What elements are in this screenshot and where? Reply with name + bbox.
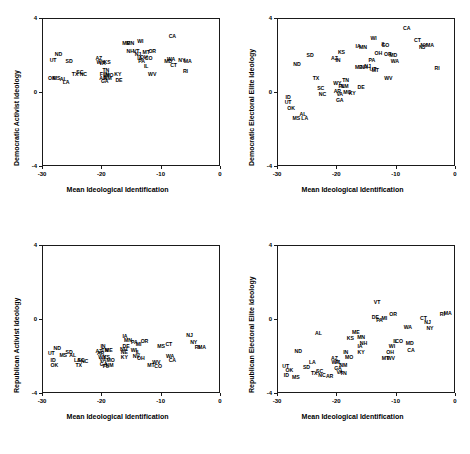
panel-democratic-activist-ideology: UTNDSDOKMSALLATXSCNCAZWYVAKSTNFLINMOARNM…: [0, 0, 235, 227]
x-axis-tick: [396, 393, 397, 396]
x-axis-tick-label: -30: [38, 398, 47, 404]
four-panel-scatter-figure: UTNDSDOKMSALLATXSCNCAZWYVAKSTNFLINMOARNM…: [0, 0, 470, 454]
y-axis-title: Democratic Activist Ideology: [13, 70, 20, 166]
x-axis-tick-label: -10: [391, 171, 400, 177]
data-point-label: NY: [426, 327, 433, 332]
y-axis-tick-label: 0: [269, 316, 272, 322]
plot-area: UTNDSDOKMSALLATXSCNCAZWYVAKSTNFLINMOARNM…: [42, 18, 220, 166]
data-point-label: ND: [295, 350, 302, 355]
data-point-label: TX: [313, 77, 319, 82]
data-point-label: IL: [144, 64, 148, 69]
data-point-label: MA: [198, 345, 206, 350]
x-axis-tick: [161, 166, 162, 169]
data-point-label: OR: [148, 50, 156, 55]
x-axis-tick: [336, 166, 337, 169]
data-point-label: OK: [50, 364, 58, 369]
x-axis-tick: [455, 166, 456, 169]
x-axis-tick: [455, 393, 456, 396]
data-point-label: IA: [357, 344, 362, 349]
data-point-label: SD: [303, 365, 310, 370]
y-axis-tick: [274, 319, 277, 320]
x-axis-tick-label: -20: [97, 171, 106, 177]
data-point-label: WI: [137, 40, 143, 45]
y-axis-tick-label: 0: [34, 316, 37, 322]
data-point-label: NC: [80, 73, 87, 78]
x-axis-tick: [336, 393, 337, 396]
data-point-label: KY: [358, 351, 365, 356]
data-point-label: MD: [406, 341, 414, 346]
data-point-label: KY: [121, 355, 128, 360]
panel-democratic-electoral-elite-ideology: IDUTOKMSALLANDSDTXSCNCAZINKSWYARVAGAFLNM…: [235, 0, 470, 227]
x-axis-tick: [277, 393, 278, 396]
y-axis-tick-label: 0: [34, 89, 37, 95]
data-point-label: DE: [115, 78, 122, 83]
plot-area: UTNDIDOKMSSDALLASCNCTXAZINTNARMEWYKSVAGA…: [42, 245, 220, 393]
data-point-label: CA: [403, 27, 410, 32]
data-point-label: CA: [407, 349, 414, 354]
data-point-label: MS: [157, 344, 165, 349]
data-point-label: WV: [387, 356, 395, 361]
data-point-label: CA: [169, 34, 176, 39]
data-point-label: MN: [357, 335, 365, 340]
data-point-label: KS: [338, 51, 345, 56]
data-point-label: GA: [336, 99, 344, 104]
y-axis-tick-label: 4: [269, 15, 272, 21]
data-point-label: LA: [309, 360, 316, 365]
y-axis-title: Democratic Electoral Elite Ideology: [248, 49, 255, 166]
data-point-label: NM: [106, 364, 114, 369]
data-point-label: UT: [48, 352, 55, 357]
data-point-label: MT: [372, 68, 379, 73]
y-axis-tick: [39, 245, 42, 246]
y-axis-tick-label: 4: [34, 242, 37, 248]
data-point-label: VT: [374, 301, 380, 306]
data-point-label: RI: [435, 66, 440, 71]
data-point-label: NC: [81, 359, 88, 364]
y-axis-tick-label: 4: [34, 15, 37, 21]
x-axis-tick-label: 0: [218, 171, 221, 177]
data-point-label: MO: [107, 358, 115, 363]
y-axis-tick: [274, 18, 277, 19]
x-axis-tick-label: -10: [156, 398, 165, 404]
data-point-label: GA: [101, 79, 109, 84]
data-point-label: RI: [183, 69, 188, 74]
data-point-label: WA: [404, 326, 412, 331]
y-axis-tick-label: -4: [32, 163, 37, 169]
x-axis-tick: [42, 393, 43, 396]
plot-area: UTOKIDMSNDSDLAALTXSCNCARAZWYFLGAVATNNMIN…: [277, 245, 455, 393]
data-point-label: MA: [426, 43, 434, 48]
data-point-label: AR: [326, 375, 333, 380]
data-point-label: CT: [170, 64, 177, 69]
x-axis-tick-label: -20: [332, 398, 341, 404]
data-point-label: ND: [293, 63, 300, 68]
data-point-label: TN: [342, 78, 349, 83]
x-axis-title: Mean Ideological Identification: [0, 186, 235, 193]
data-point-label: ND: [55, 52, 62, 57]
x-axis-tick: [220, 166, 221, 169]
y-axis-tick-label: 4: [269, 242, 272, 248]
data-point-label: DE: [123, 344, 130, 349]
data-point-label: OH: [374, 52, 382, 57]
data-point-label: KY: [349, 91, 356, 96]
data-point-label: OR: [389, 313, 397, 318]
x-axis-tick-label: -30: [273, 398, 282, 404]
y-axis-tick: [39, 18, 42, 19]
data-point-label: MN: [359, 45, 367, 50]
x-axis-tick-label: 0: [218, 398, 221, 404]
data-point-label: OH: [137, 356, 145, 361]
data-point-label: OR: [141, 340, 149, 345]
y-axis-tick-label: -4: [267, 163, 272, 169]
data-point-label: WV: [384, 77, 392, 82]
x-axis-title: Mean Ideological Identification: [235, 186, 470, 193]
data-point-label: TX: [75, 364, 81, 369]
data-point-label: WI: [389, 344, 395, 349]
data-point-label: CA: [169, 358, 176, 363]
x-axis-tick-label: -10: [156, 171, 165, 177]
data-point-label: MA: [444, 312, 452, 317]
data-point-label: OH: [386, 351, 394, 356]
data-point-label: NC: [318, 374, 325, 379]
x-axis-tick-label: -30: [273, 171, 282, 177]
y-axis-title: Republican Activist Ideology: [13, 298, 20, 393]
y-axis-title: Republican Electoral Elite Ideology: [248, 276, 255, 393]
data-point-label: MD: [389, 53, 397, 58]
data-point-label: SD: [307, 53, 314, 58]
